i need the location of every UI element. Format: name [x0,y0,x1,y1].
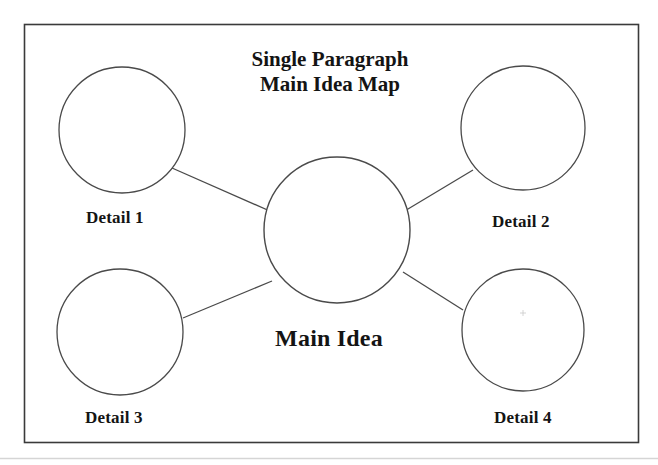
detail-label-4: Detail 4 [494,408,552,428]
detail-label-1: Detail 1 [86,208,144,228]
main-idea-label: Main Idea [0,325,658,352]
detail-label-3: Detail 3 [85,408,143,428]
worksheet-title-line-2: Main Idea Map [205,72,455,97]
worksheet-page: Single Paragraph Main Idea Map Detail 1 … [0,0,658,465]
main-idea-circle[interactable] [264,157,410,303]
detail-circle-1[interactable] [59,67,185,193]
detail-label-2: Detail 2 [492,212,550,232]
worksheet-title: Single Paragraph Main Idea Map [205,47,455,97]
worksheet-title-line-1: Single Paragraph [205,47,455,72]
detail-circle-2[interactable] [461,66,585,190]
